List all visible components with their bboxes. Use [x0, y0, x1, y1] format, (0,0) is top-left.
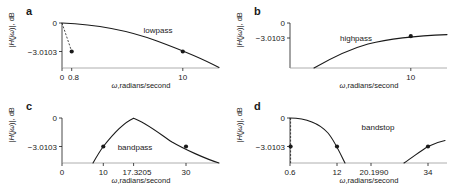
x-ticklabel-34-d: 34 [424, 168, 433, 177]
y-ticklabel-0-a: 0 [53, 19, 58, 28]
x-ticklabel-0p8-a: 0.8 [68, 73, 80, 82]
annotation-bandpass: bandpass [118, 143, 153, 152]
y-ticklabel-3db-d: −3.0103 [256, 143, 286, 152]
x-axis-label-b: ω,radians/second [290, 82, 448, 90]
x-ticklabel-0-c: 0 [60, 168, 65, 177]
annotation-highpass: highpass [340, 34, 372, 43]
annotation-lowpass: lowpass [144, 26, 173, 35]
marker-10-a [181, 49, 185, 53]
highpass-curve [314, 35, 447, 68]
marker-10-c [101, 144, 105, 148]
marker-0p8-a [70, 49, 74, 53]
marker-34-d [426, 144, 430, 148]
y-ticklabel-0-b: 0 [281, 19, 286, 28]
marker-10-b [409, 34, 413, 38]
filter-response-figure: a |H(jω)|, dB 0 −3.0103 0 0.8 10 [0, 0, 457, 190]
y-ticklabel-3db-a: −3.0103 [28, 48, 58, 57]
marker-12-d [335, 144, 339, 148]
y-ticklabel-3db-c: −3.0103 [28, 143, 58, 152]
panel-highpass: b |H(jω)|, dB 0 −3.0103 10 highpass ω,ra… [228, 0, 456, 95]
bandpass-curve [93, 118, 219, 163]
panel-lowpass: a |H(jω)|, dB 0 −3.0103 0 0.8 10 [0, 0, 228, 95]
x-ticklabel-30-c: 30 [182, 168, 191, 177]
x-ticklabel-10-b: 10 [406, 73, 415, 82]
y-ticklabel-0-d: 0 [281, 114, 286, 123]
x-axis-label-a: ω,radians/second [62, 82, 220, 90]
annotation-bandstop: bandstop [362, 123, 395, 132]
x-ticklabel-0-a: 0 [60, 73, 65, 82]
y-ticklabel-0-c: 0 [53, 114, 58, 123]
panel-bandstop: d |H(jω)|, dB 0 −3.0103 0.6 12 20.1990 3… [228, 95, 456, 190]
x-axis-label-c: ω,radians/second [62, 177, 220, 185]
bandstop-upper-curve [404, 141, 445, 164]
bandstop-lower-curve [290, 118, 345, 163]
x-ticklabel-10-a: 10 [178, 73, 187, 82]
cutoff-dashed-line-a [62, 23, 72, 52]
x-ticklabel-0p6-d: 0.6 [284, 168, 296, 177]
x-axis-label-d: ω,radians/second [290, 177, 448, 185]
marker-0p6-d [289, 144, 293, 148]
lowpass-curve [62, 23, 219, 68]
y-ticklabel-3db-b: −3.0103 [256, 34, 286, 43]
x-ticklabel-10-c: 10 [99, 168, 108, 177]
marker-30-c [184, 144, 188, 148]
panel-bandpass: c |H(jω)|, dB 0 −3.0103 0 10 17.3205 30 … [0, 95, 228, 190]
